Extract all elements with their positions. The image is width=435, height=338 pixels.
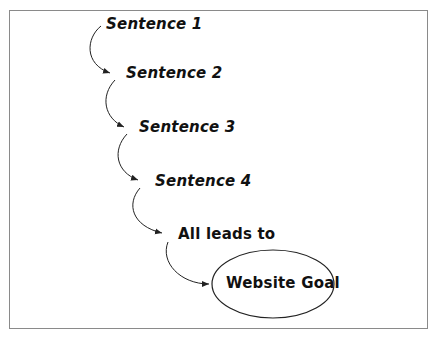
flow-arrows [0,0,435,338]
step-sentence-4: Sentence 4 [155,172,251,190]
arrow-2-to-3 [106,80,124,127]
arrow-1-to-2 [90,26,110,73]
step-sentence-2: Sentence 2 [126,64,222,82]
goal-label: Website Goal [226,274,340,292]
step-all-leads-to: All leads to [178,225,275,243]
step-sentence-3: Sentence 3 [139,118,235,136]
step-sentence-1: Sentence 1 [106,15,202,33]
arrow-3-to-4 [118,134,138,180]
arrow-4-to-leads [133,188,162,233]
arrow-leads-to-goal [166,242,209,284]
